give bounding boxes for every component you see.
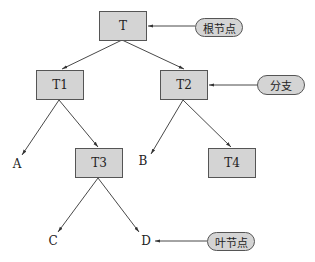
annotation-root-node: 根节点 [195,18,243,37]
node-t2-label: T2 [176,78,192,92]
leaf-d: D [141,234,151,248]
edge-t1-a [22,100,59,155]
edge-t3-c [58,178,98,232]
node-t2: T2 [160,70,208,100]
edge-t1-t3 [59,100,98,147]
edge-t-t1 [62,40,122,69]
tree-edges [0,0,315,262]
node-t1: T1 [36,70,84,100]
edge-t3-d [98,178,139,232]
edge-t2-b [151,100,183,154]
leaf-c: C [48,234,57,248]
node-t3: T3 [75,148,123,178]
annotation-branch-label: 分支 [270,77,292,93]
node-t3-label: T3 [91,156,107,170]
leaf-a: A [13,157,22,171]
node-t4-label: T4 [224,156,240,170]
annotation-root-node-label: 根节点 [203,20,236,36]
node-t1-label: T1 [52,78,68,92]
node-t-label: T [119,19,127,33]
leaf-b: B [139,154,148,168]
node-t4: T4 [208,148,256,178]
edge-t2-t4 [183,100,231,147]
node-t: T [99,11,147,41]
edge-t-t2 [122,40,184,69]
annotation-branch: 分支 [257,75,305,95]
annotation-leaf-node-label: 叶节点 [215,234,248,250]
annotation-leaf-node: 叶节点 [207,232,255,251]
